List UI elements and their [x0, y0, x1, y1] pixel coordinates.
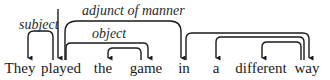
arc-way-different: [262, 42, 301, 60]
word-played: played: [41, 60, 81, 77]
arc-object: [66, 43, 148, 60]
dependency-diagram: subject adjunct of manner object They pl…: [0, 0, 330, 80]
arc-way-a: [216, 37, 304, 60]
word-game: game: [130, 60, 162, 77]
label-subject: subject: [19, 17, 59, 33]
word-a: a: [213, 60, 220, 77]
word-way: way: [295, 60, 320, 77]
arc-game-the: [108, 48, 141, 60]
label-object: object: [92, 26, 126, 42]
label-adjunct-of-manner: adjunct of manner: [82, 3, 185, 19]
arc-subject: [28, 31, 53, 60]
word-the: the: [94, 60, 112, 77]
word-different: different: [235, 60, 286, 77]
word-they: They: [5, 60, 36, 77]
word-in: in: [178, 60, 190, 77]
